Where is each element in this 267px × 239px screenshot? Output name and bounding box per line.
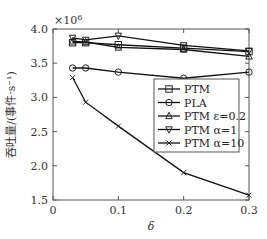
legend-label: PTM α=1	[184, 124, 237, 137]
legend-label: PLA	[184, 97, 208, 110]
y-tick-label: 2.0	[31, 160, 49, 173]
legend-label: PTM	[184, 83, 210, 96]
y-axis-label: 吞吐量/(事件·s⁻¹)	[5, 71, 18, 158]
y-tick-label: 2.5	[31, 126, 49, 139]
throughput-chart: 1.52.02.53.03.54.000.10.20.3×106δ吞吐量/(事件…	[0, 0, 267, 239]
x-tick-label: 0.3	[240, 204, 258, 217]
x-tick-label: 0	[50, 204, 57, 217]
series-line	[73, 68, 249, 78]
y-tick-label: 3.5	[31, 57, 49, 70]
y-multiplier: ×106	[54, 13, 82, 27]
x-tick-label: 0.2	[175, 204, 193, 217]
y-tick-label: 3.0	[31, 91, 49, 104]
x-axis-label: δ	[148, 220, 155, 233]
y-tick-label: 4.0	[31, 23, 49, 36]
legend-label: PTM α=10	[184, 137, 244, 150]
y-tick-label: 1.5	[31, 194, 49, 207]
legend-label: PTM ε=0.2	[184, 110, 246, 123]
x-tick-label: 0.1	[110, 204, 128, 217]
